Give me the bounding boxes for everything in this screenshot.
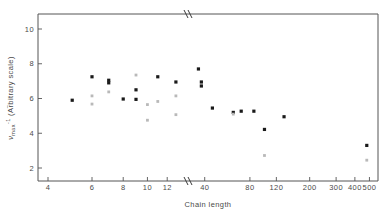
x-axis: 46810124080120200300400500 (46, 177, 377, 192)
data-point-filled (90, 75, 93, 78)
data-points (71, 67, 369, 161)
scatter-plot: 246810 46810124080120200300400500 Chain … (0, 0, 392, 220)
axis-break-marks (184, 10, 192, 185)
x-tick-label: 4 (46, 183, 51, 192)
y-tick-label: 2 (29, 164, 34, 173)
y-axis: 246810 (25, 25, 42, 173)
x-tick-label: 120 (270, 183, 284, 192)
x-tick-label: 500 (363, 183, 377, 192)
data-point-filled (211, 106, 214, 109)
data-point-open (107, 90, 110, 93)
data-point-filled (197, 67, 200, 70)
data-point-open (146, 103, 149, 106)
data-point-filled (156, 75, 159, 78)
data-point-open (365, 159, 368, 162)
x-tick-label: 40 (200, 183, 209, 192)
data-point-open (156, 100, 159, 103)
data-point-filled (71, 99, 74, 102)
data-point-open (135, 74, 138, 77)
data-point-open (263, 154, 266, 157)
data-point-open (175, 94, 178, 97)
data-point-open (91, 94, 94, 97)
y-tick-label: 6 (29, 94, 34, 103)
x-tick-label: 12 (163, 183, 172, 192)
figure-container: 246810 46810124080120200300400500 Chain … (0, 0, 392, 220)
x-tick-label: 8 (121, 183, 126, 192)
data-point-filled (240, 110, 243, 113)
y-axis-title-group: νmax-1 (Arbitrary scale) ~ (4, 56, 16, 140)
x-tick-label: 300 (329, 183, 343, 192)
x-tick-label: 200 (303, 183, 317, 192)
x-tick-label: 80 (245, 183, 254, 192)
data-point-open (146, 119, 149, 122)
y-axis-title: νmax-1 (Arbitrary scale) (5, 56, 16, 140)
data-point-filled (107, 81, 110, 84)
x-tick-label: 400 (348, 183, 362, 192)
y-axis-tilde-accent: ~ (4, 104, 10, 108)
data-point-filled (365, 144, 368, 147)
x-tick-label: 10 (143, 183, 152, 192)
data-point-open (91, 103, 94, 106)
y-tick-label: 8 (29, 59, 34, 68)
data-point-filled (263, 128, 266, 131)
data-point-filled (174, 80, 177, 83)
x-tick-label: 6 (90, 183, 95, 192)
data-point-filled (200, 80, 203, 83)
data-point-open (232, 113, 235, 116)
plot-frame (38, 14, 378, 181)
data-point-filled (134, 98, 137, 101)
x-axis-title: Chain length (185, 200, 232, 209)
y-tick-label: 4 (29, 129, 34, 138)
data-point-filled (252, 110, 255, 113)
data-point-filled (200, 84, 203, 87)
y-tick-label: 10 (25, 25, 34, 34)
data-point-filled (134, 88, 137, 91)
data-point-filled (122, 97, 125, 100)
data-point-open (175, 113, 178, 116)
data-point-filled (282, 115, 285, 118)
